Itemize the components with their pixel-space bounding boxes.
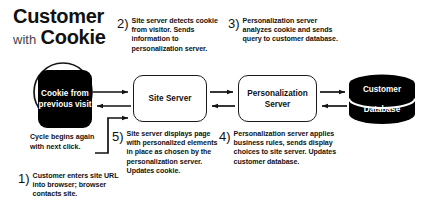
diagram-canvas: Customer with Cookie	[0, 0, 425, 222]
personalization-server-label: Personalization Server	[239, 88, 316, 110]
database-label-top: Customer	[348, 85, 416, 95]
site-server-label: Site Server	[149, 93, 192, 104]
database-cylinder-icon	[348, 74, 416, 124]
node-customer-database[interactable]: Customer Database	[348, 74, 416, 124]
node-cookie-from-previous-visit[interactable]: Cookie from previous visit	[38, 70, 92, 128]
node-personalization-server[interactable]: Personalization Server	[238, 75, 317, 122]
node-site-server[interactable]: Site Server	[133, 75, 207, 122]
database-label-bottom: Database	[348, 105, 416, 115]
cookie-node-label: Cookie from previous visit	[38, 88, 92, 110]
